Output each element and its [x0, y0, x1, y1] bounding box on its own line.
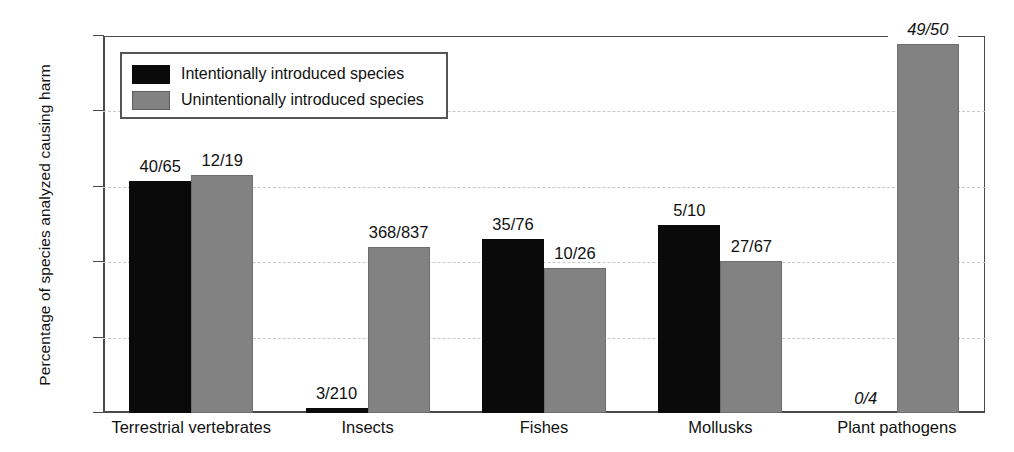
bar-value-label: 10/26	[524, 244, 626, 263]
bar-unintentional	[191, 175, 253, 413]
legend-label-intentional: Intentionally introduced species	[181, 66, 404, 82]
x-category-label: Terrestrial vertebrates	[103, 418, 279, 437]
legend-item-unintentional: Unintentionally introduced species	[132, 87, 446, 113]
bar-unintentional	[897, 44, 959, 413]
x-category-label: Insects	[279, 418, 455, 437]
x-category-label: Mollusks	[632, 418, 808, 437]
legend-swatch-black-icon	[132, 65, 170, 84]
x-category-label: Fishes	[456, 418, 632, 437]
bar-value-label: 27/67	[700, 237, 802, 256]
bar-value-label: 12/19	[171, 151, 273, 170]
bar-unintentional	[720, 261, 782, 413]
bar-intentional	[129, 181, 191, 413]
bar-value-label: 35/76	[462, 215, 564, 234]
bar-value-label: 5/10	[638, 201, 740, 220]
bar-unintentional	[368, 247, 430, 413]
bar-value-label: 49/50	[877, 20, 979, 39]
legend: Intentionally introduced species Uninten…	[120, 52, 448, 119]
legend-swatch-gray-icon	[132, 91, 170, 110]
bar-value-label: 368/837	[348, 223, 450, 242]
legend-item-intentional: Intentionally introduced species	[132, 61, 446, 87]
bar-intentional	[482, 239, 544, 413]
bar-chart: Percentage of species analyzed causing h…	[0, 0, 1014, 452]
x-category-label: Plant pathogens	[809, 418, 985, 437]
bar-intentional	[306, 408, 368, 413]
legend-label-unintentional: Unintentionally introduced species	[181, 92, 424, 108]
bar-unintentional	[544, 268, 606, 413]
y-axis: 020406080100	[0, 0, 103, 452]
